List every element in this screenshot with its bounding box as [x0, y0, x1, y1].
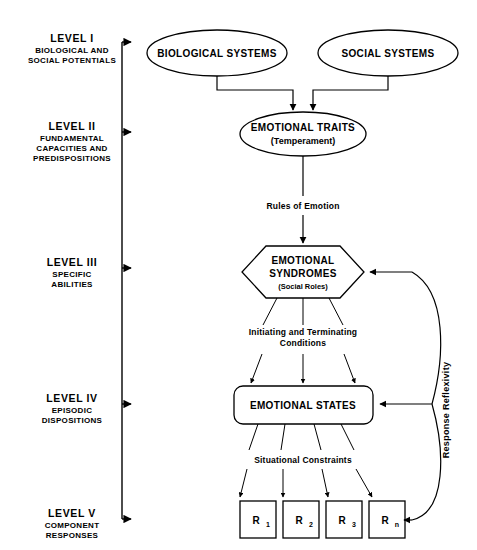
response-3-subscript: 3: [352, 521, 356, 528]
hierarchy-diagram: LEVEL I BIOLOGICAL AND SOCIAL POTENTIALS…: [0, 0, 477, 550]
emotional-traits-sublabel: (Temperament): [271, 136, 335, 146]
emotional-syndromes-label-line-1: EMOTIONAL: [271, 255, 334, 266]
level-axis: [122, 42, 131, 519]
reflexivity-lower-arc: [412, 404, 441, 520]
level-label-group-1: LEVEL I BIOLOGICAL AND SOCIAL POTENTIALS: [28, 32, 116, 65]
level-label-group-5: LEVEL V COMPONENT RESPONSES: [45, 507, 100, 540]
edge-situational-constraints-lower: [240, 469, 372, 497]
initiating-conditions-line-1: Initiating and Terminating: [249, 327, 357, 337]
edge-initiating-conditions-label: Initiating and Terminating Conditions: [249, 327, 357, 348]
response-n-label: R: [381, 515, 389, 526]
response-1-label: R: [252, 515, 260, 526]
connector-social-to-traits: [313, 76, 388, 110]
edge-initiating-conditions-lower: [251, 354, 355, 383]
level-3-subtitle-line-1: SPECIFIC: [52, 270, 91, 279]
level-label-group-2: LEVEL II FUNDAMENTAL CAPACITIES AND PRED…: [33, 120, 111, 163]
level-3-title: LEVEL III: [47, 256, 98, 268]
emotional-states-label: EMOTIONAL STATES: [250, 400, 356, 411]
level-1-subtitle-line-2: SOCIAL POTENTIALS: [28, 56, 116, 65]
biological-systems-label: BIOLOGICAL SYSTEMS: [157, 48, 276, 59]
response-reflexivity-feedback: Response Reflexivity: [370, 272, 451, 520]
level-5-subtitle-line-2: RESPONSES: [46, 531, 99, 540]
situational-constraints-label: Situational Constraints: [254, 455, 352, 465]
emotional-traits-label: EMOTIONAL TRAITS: [251, 122, 355, 133]
node-social-systems[interactable]: SOCIAL SYSTEMS: [318, 30, 458, 76]
response-2-subscript: 2: [309, 521, 313, 528]
level-2-subtitle-line-1: FUNDAMENTAL: [40, 134, 104, 143]
emotional-syndromes-label-line-2: SYNDROMES: [269, 268, 337, 279]
level-4-subtitle-line-2: DISPOSITIONS: [42, 416, 103, 425]
response-box-2[interactable]: R 2: [283, 501, 319, 538]
node-biological-systems[interactable]: BIOLOGICAL SYSTEMS: [147, 30, 287, 76]
level-1-subtitle-line-1: BIOLOGICAL AND: [35, 46, 109, 55]
response-box-n[interactable]: R n: [369, 501, 405, 538]
level-4-subtitle-line-1: EPISODIC: [52, 406, 93, 415]
edge-rules-of-emotion: Rules of Emotion: [266, 156, 339, 243]
level-2-subtitle-line-3: PREDISPOSITIONS: [33, 154, 111, 163]
diagram-canvas: LEVEL I BIOLOGICAL AND SOCIAL POTENTIALS…: [0, 0, 477, 550]
social-systems-label: SOCIAL SYSTEMS: [341, 48, 434, 59]
response-box-3[interactable]: R 3: [326, 501, 362, 538]
level-5-subtitle-line-1: COMPONENT: [45, 521, 100, 530]
rules-of-emotion-label: Rules of Emotion: [266, 201, 339, 211]
node-emotional-states[interactable]: EMOTIONAL STATES: [234, 386, 373, 424]
initiating-conditions-line-2: Conditions: [280, 338, 326, 348]
response-3-label: R: [338, 515, 346, 526]
level-2-subtitle-line-2: CAPACITIES AND: [36, 144, 107, 153]
level-3-subtitle-line-2: ABILITIES: [51, 280, 93, 289]
edge-initiating-conditions-upper: [263, 298, 343, 325]
level-label-group-3: LEVEL III SPECIFIC ABILITIES: [47, 256, 98, 289]
response-1-subscript: 1: [266, 521, 270, 528]
level-4-title: LEVEL IV: [46, 392, 97, 404]
response-n-subscript: n: [395, 521, 399, 528]
connector-level1-to-level2: [217, 76, 388, 110]
level-2-title: LEVEL II: [48, 120, 95, 132]
reflexivity-upper-arc: [412, 272, 441, 404]
response-box-1[interactable]: R 1: [240, 501, 276, 538]
node-emotional-syndromes[interactable]: EMOTIONAL SYNDROMES (Social Roles): [242, 246, 364, 298]
level-1-title: LEVEL I: [50, 32, 94, 44]
connector-biological-to-traits: [217, 76, 293, 110]
edge-situational-constraints-upper: [249, 424, 354, 450]
response-2-label: R: [295, 515, 303, 526]
level-label-group-4: LEVEL IV EPISODIC DISPOSITIONS: [42, 392, 103, 425]
level-5-title: LEVEL V: [48, 507, 96, 519]
node-emotional-traits[interactable]: EMOTIONAL TRAITS (Temperament): [240, 112, 366, 156]
edge-situational-constraints-label: Situational Constraints: [254, 455, 352, 465]
emotional-syndromes-sublabel: (Social Roles): [278, 282, 328, 291]
response-reflexivity-label: Response Reflexivity: [441, 362, 451, 459]
